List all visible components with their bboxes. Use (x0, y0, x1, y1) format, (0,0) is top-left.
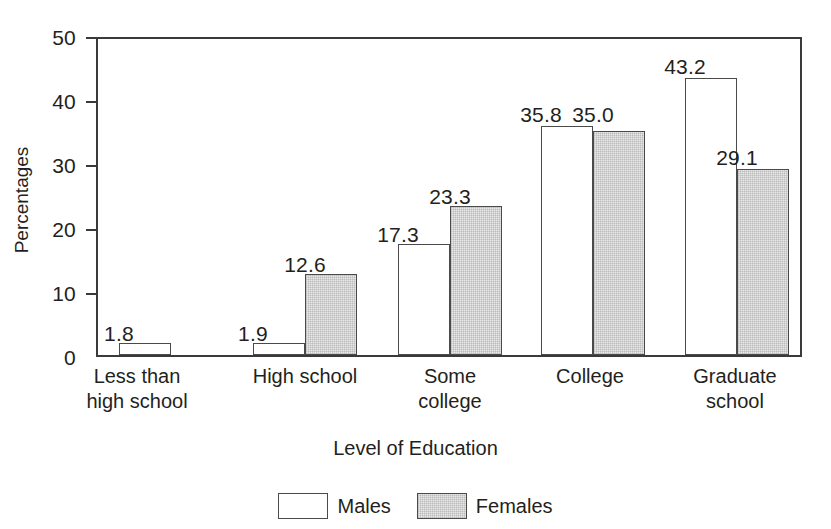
legend: Males Females (0, 493, 831, 519)
bar-females-some-college[interactable] (450, 206, 502, 355)
x-category-line1: Some (370, 364, 530, 389)
x-category-label-less-than-high-school: Less than high school (57, 364, 217, 414)
y-tick-label-30: 30 (26, 155, 76, 176)
value-label-males-less-than-high-school: 1.8 (93, 323, 145, 344)
legend-swatch-females-icon (417, 493, 467, 519)
value-label-males-some-college: 17.3 (372, 224, 424, 245)
x-category-label-graduate-school: Graduate school (655, 364, 815, 414)
y-tick-label-20: 20 (26, 219, 76, 240)
y-tick-10 (86, 293, 96, 295)
x-category-line1: College (510, 364, 670, 389)
x-category-label-high-school: High school (225, 364, 385, 389)
x-axis-title: Level of Education (0, 437, 831, 460)
y-tick-label-40: 40 (26, 91, 76, 112)
value-label-males-college: 35.8 (515, 104, 567, 125)
x-category-line1: Graduate (655, 364, 815, 389)
legend-item-males[interactable]: Males (278, 493, 390, 519)
bar-females-high-school[interactable] (305, 274, 357, 355)
value-label-males-graduate-school: 43.2 (659, 56, 711, 77)
y-tick-label-50: 50 (26, 27, 76, 48)
legend-label-males: Males (337, 495, 390, 518)
bar-females-college[interactable] (593, 131, 645, 355)
value-label-females-college: 35.0 (567, 104, 619, 125)
x-category-line2: college (370, 389, 530, 414)
bar-males-college[interactable] (541, 126, 593, 355)
x-category-line2: school (655, 389, 815, 414)
y-axis-title: Percentages (8, 100, 36, 300)
legend-label-females: Females (476, 495, 553, 518)
x-category-label-some-college: Some college (370, 364, 530, 414)
bar-females-graduate-school[interactable] (737, 169, 789, 355)
y-tick-label-10: 10 (26, 283, 76, 304)
y-tick-50 (86, 37, 96, 39)
bar-chart: Percentages 50 40 30 20 10 0 1.8 1.9 12.… (0, 0, 831, 529)
y-tick-30 (86, 165, 96, 167)
legend-item-females[interactable]: Females (417, 493, 553, 519)
value-label-females-graduate-school: 29.1 (711, 147, 763, 168)
value-label-females-some-college: 23.3 (424, 186, 476, 207)
x-category-line1: Less than (57, 364, 217, 389)
legend-swatch-males-icon (278, 493, 328, 519)
x-category-label-college: College (510, 364, 670, 389)
value-label-males-high-school: 1.9 (227, 323, 279, 344)
y-tick-40 (86, 101, 96, 103)
bar-males-graduate-school[interactable] (685, 78, 737, 355)
y-tick-20 (86, 229, 96, 231)
x-category-line2: high school (57, 389, 217, 414)
value-label-females-high-school: 12.6 (279, 254, 331, 275)
bar-males-some-college[interactable] (398, 244, 450, 355)
x-category-line1: High school (225, 364, 385, 389)
